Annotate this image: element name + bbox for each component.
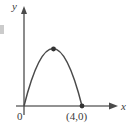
x-intercept-point-marker — [80, 104, 85, 109]
x-axis-label: x — [121, 101, 126, 112]
vertex-point-marker — [51, 47, 56, 52]
y-axis-label: y — [12, 1, 17, 12]
parabola-curve — [24, 49, 82, 107]
parabola-figure: y x 0 (4,0) — [0, 0, 131, 133]
x-axis-arrow-icon — [109, 103, 118, 110]
y-axis-arrow-icon — [21, 6, 27, 14]
origin-label: 0 — [17, 111, 23, 122]
x-intercept-label: (4,0) — [66, 111, 87, 122]
